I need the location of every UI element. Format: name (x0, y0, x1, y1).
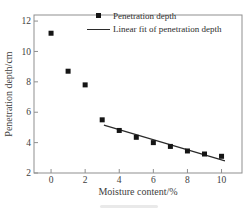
y-tick-label: 12 (22, 16, 32, 26)
x-tick-label: 6 (151, 175, 156, 185)
x-tick-label: 10 (217, 175, 227, 185)
scan-artifact (100, 205, 158, 208)
legend-label-linear-fit: Linear fit of penetration depth (113, 24, 221, 34)
legend-item-linear-fit: Linear fit of penetration depth (87, 23, 249, 37)
x-axis-title: Moisture content/% (34, 186, 242, 197)
data-point-marker (134, 135, 139, 140)
y-tick-label: 2 (26, 168, 31, 178)
legend-label-penetration-depth: Penetration depth (113, 11, 176, 21)
legend-square-marker-icon (87, 13, 110, 18)
data-point-marker (168, 144, 173, 149)
x-tick-label: 4 (117, 175, 122, 185)
data-point-marker (117, 128, 122, 133)
data-point-marker (66, 69, 71, 74)
x-tick-label: 8 (185, 175, 190, 185)
y-axis-title: Penetration depth/cm (2, 15, 16, 173)
x-tick-label: 0 (49, 175, 54, 185)
y-tick-label: 10 (22, 47, 32, 57)
penetration-depth-figure: 024681024681012 Penetration depth Linear… (0, 0, 252, 210)
y-tick-label: 4 (26, 138, 31, 148)
data-point-marker (202, 152, 207, 157)
data-point-marker (185, 148, 190, 153)
legend-line-sample-icon (87, 29, 110, 30)
data-point-marker (151, 140, 156, 145)
data-point-marker (49, 31, 54, 36)
data-point-marker (100, 117, 105, 122)
legend-item-penetration-depth: Penetration depth (87, 9, 249, 23)
y-tick-label: 6 (26, 107, 31, 117)
legend: Penetration depth Linear fit of penetrat… (87, 9, 249, 36)
plot-frame (34, 15, 242, 173)
y-tick-label: 8 (26, 77, 31, 87)
x-tick-label: 2 (83, 175, 88, 185)
data-point-marker (219, 154, 224, 159)
data-point-marker (83, 82, 88, 87)
